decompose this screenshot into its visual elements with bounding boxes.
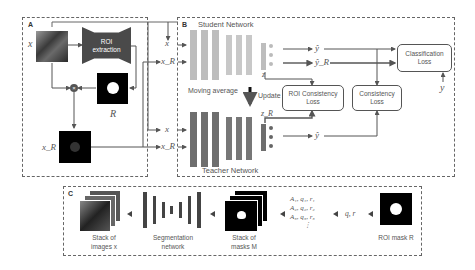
qr-label: q, r bbox=[345, 209, 355, 218]
moving-average-label: Moving average bbox=[188, 86, 238, 97]
teacher-layer-6 bbox=[246, 117, 252, 160]
param-row-1: A₁, q₁, r₁ bbox=[290, 195, 330, 204]
panel-c-label: C bbox=[68, 190, 73, 197]
teacher-output-nodes bbox=[269, 126, 274, 150]
parameter-list: A₁, q₁, r₁ A₂, q₂, r₂ A₃, q₃, r₃ ⋮ bbox=[290, 195, 330, 229]
stack-images-label: Stack of images x bbox=[84, 233, 124, 251]
roi-consistency-loss-box: ROI Consistency Loss bbox=[282, 85, 344, 111]
input-x-label: x bbox=[28, 38, 32, 49]
teacher-y-hat: ŷ bbox=[315, 130, 319, 140]
xr-label-bottom: x_R bbox=[161, 141, 175, 151]
student-layer-1 bbox=[190, 30, 197, 80]
panel-b-label: B bbox=[182, 21, 187, 28]
ground-truth-y-label: y bbox=[440, 82, 444, 93]
mask-stack bbox=[224, 190, 269, 232]
roi-mask-label: ROI mask R bbox=[376, 233, 416, 242]
teacher-network-title: Teacher Network bbox=[202, 166, 258, 175]
teacher-layer-5 bbox=[236, 117, 242, 160]
student-layer-3 bbox=[212, 30, 219, 80]
teacher-feature-bar bbox=[261, 124, 266, 151]
student-feature-bar bbox=[261, 43, 266, 70]
stack-masks-label: Stack of masks M bbox=[224, 233, 264, 251]
classification-loss-box: Classification Loss bbox=[397, 44, 452, 72]
student-network-title: Student Network bbox=[198, 20, 253, 29]
segmentation-network-label: Segmentation network bbox=[143, 233, 203, 251]
student-y-hat-r: ŷ_R bbox=[315, 57, 329, 67]
x-label-top: x bbox=[165, 38, 169, 48]
segmentation-network-icon bbox=[143, 192, 203, 230]
student-layer-6 bbox=[246, 35, 252, 75]
xr-label-top: x_R bbox=[161, 56, 175, 66]
masked-input-label: x_R bbox=[42, 142, 56, 152]
student-feature-z-label: z bbox=[262, 70, 265, 79]
student-layer-4 bbox=[226, 35, 232, 75]
update-label: Update bbox=[258, 92, 281, 99]
student-layer-2 bbox=[201, 30, 208, 80]
roi-mask-thumbnail bbox=[97, 73, 128, 104]
roi-extraction-label: ROI extraction bbox=[86, 38, 127, 54]
student-y-hat: ŷ bbox=[315, 43, 319, 53]
param-ellipsis: ⋮ bbox=[290, 222, 330, 229]
mask-r-label: R bbox=[110, 108, 116, 119]
input-image-thumbnail bbox=[36, 31, 68, 62]
teacher-feature-zr-label: z_R bbox=[261, 109, 273, 118]
x-label-bottom: x bbox=[165, 124, 169, 134]
image-stack bbox=[79, 190, 121, 232]
roi-mask-output bbox=[380, 193, 412, 225]
teacher-layer-3 bbox=[212, 112, 219, 167]
param-row-2: A₂, q₂, r₂ bbox=[290, 204, 330, 213]
teacher-layer-2 bbox=[201, 112, 208, 167]
teacher-layer-4 bbox=[226, 117, 232, 160]
masked-input-thumbnail bbox=[59, 131, 91, 163]
consistency-loss-box: Consistency Loss bbox=[352, 85, 402, 111]
teacher-layer-1 bbox=[190, 112, 197, 167]
student-layer-5 bbox=[236, 35, 242, 75]
student-output-nodes bbox=[269, 44, 274, 68]
panel-a-label: A bbox=[28, 21, 33, 28]
multiply-node: × bbox=[70, 84, 78, 92]
